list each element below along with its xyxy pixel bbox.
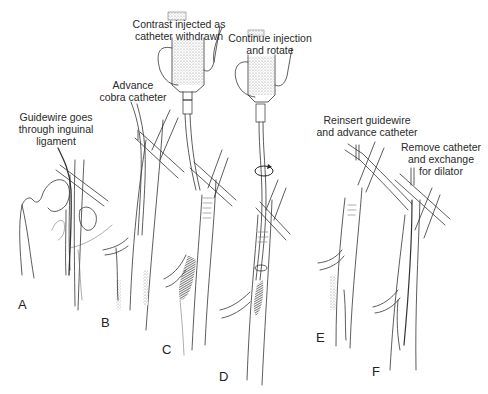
panel-d-drawing [220, 30, 292, 385]
caption-line: and exchange [398, 153, 484, 165]
caption-panel-b: Advance cobra catheter [96, 79, 170, 103]
panel-b-drawing [103, 102, 184, 330]
panel-label-b: B [101, 315, 110, 330]
caption-panel-e: Reinsert guidewire and advance catheter [311, 114, 423, 138]
panel-c-drawing [158, 12, 236, 355]
caption-panel-a: Guidewire goes through inguinal ligament [8, 111, 104, 147]
panel-f-drawing [373, 168, 450, 370]
caption-line: through inguinal [8, 123, 104, 135]
panel-label-a: A [18, 297, 27, 312]
caption-line: Remove catheter [398, 141, 484, 153]
rotate-arrow-icon [255, 164, 273, 176]
procedure-figure: Guidewire goes through inguinal ligament… [0, 0, 488, 394]
panel-label-d: D [219, 369, 228, 384]
caption-line: and rotate [222, 44, 318, 56]
caption-panel-f: Remove catheter and exchange for dilator [398, 141, 484, 177]
caption-line: ligament [8, 135, 104, 147]
panel-a-drawing [20, 148, 112, 310]
caption-line: Continue injection [222, 32, 318, 44]
caption-line: Contrast injected as [124, 18, 234, 30]
line-art [0, 0, 488, 394]
caption-line: Advance [96, 79, 170, 91]
caption-line: for dilator [398, 165, 484, 177]
caption-line: Reinsert guidewire [311, 114, 423, 126]
panel-label-e: E [316, 330, 325, 345]
caption-panel-d: Continue injection and rotate [222, 32, 318, 56]
caption-line: and advance catheter [311, 126, 423, 138]
panel-label-f: F [372, 364, 380, 379]
caption-line: cobra catheter [96, 91, 170, 103]
caption-line: catheter withdrawn [124, 30, 234, 42]
caption-panel-c: Contrast injected as catheter withdrawn [124, 18, 234, 42]
caption-line: Guidewire goes [8, 111, 104, 123]
panel-label-c: C [162, 342, 171, 357]
